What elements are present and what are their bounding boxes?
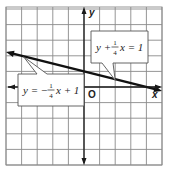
coordinate-plane: yxO y +14x = 1y = −14x + 1 [0, 0, 169, 174]
fraction-denominator: 4 [49, 92, 53, 100]
origin-label: O [88, 89, 96, 100]
equation-part: y = − [22, 84, 48, 96]
y-axis-label: y [88, 7, 95, 18]
equation-part: x = 1 [119, 41, 143, 53]
y-axis-arrow-up [82, 7, 87, 14]
equation-part: x + 1 [55, 84, 79, 96]
x-axis-label: x [151, 89, 158, 100]
fraction-numerator: 1 [113, 39, 117, 47]
fraction-denominator: 4 [113, 49, 117, 57]
equation-part: y + [95, 41, 111, 53]
x-axis-arrow-left [8, 85, 15, 90]
y-axis-arrow-down [82, 158, 87, 165]
fraction-numerator: 1 [49, 82, 53, 90]
